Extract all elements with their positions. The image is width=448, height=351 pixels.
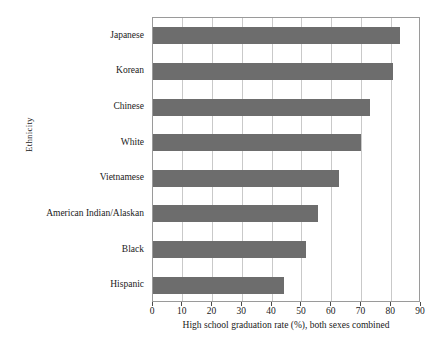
bar bbox=[153, 134, 361, 151]
x-axis-tick-label: 20 bbox=[199, 306, 225, 316]
x-axis-tick-label: 0 bbox=[139, 306, 165, 316]
y-axis-tick-label: White bbox=[28, 137, 144, 147]
bar bbox=[153, 205, 318, 222]
y-axis-tick-label: Vietnamese bbox=[28, 172, 144, 182]
plot-area bbox=[152, 17, 420, 302]
bar bbox=[153, 241, 306, 258]
x-axis-tick-labels: 0102030405060708090 bbox=[152, 306, 420, 319]
gridline-10 bbox=[182, 18, 183, 301]
y-axis-tick-label: Chinese bbox=[28, 101, 144, 111]
gridline-80 bbox=[391, 18, 392, 301]
x-axis-tick-label: 70 bbox=[347, 306, 373, 316]
x-axis-tick-label: 90 bbox=[407, 306, 433, 316]
gridline-20 bbox=[212, 18, 213, 301]
gridline-70 bbox=[361, 18, 362, 301]
y-axis-tick-labels: JapaneseKoreanChineseWhiteVietnameseAmer… bbox=[30, 17, 148, 302]
y-axis-tick-label: Japanese bbox=[28, 30, 144, 40]
x-axis-tick-label: 80 bbox=[377, 306, 403, 316]
x-axis-tick-label: 40 bbox=[258, 306, 284, 316]
y-axis-tick-label: Black bbox=[28, 244, 144, 254]
bar bbox=[153, 99, 370, 116]
x-axis-tick-label: 60 bbox=[318, 306, 344, 316]
y-axis-tick-label: Hispanic bbox=[28, 279, 144, 289]
chart-figure: Ethnicity JapaneseKoreanChineseWhiteViet… bbox=[0, 0, 448, 351]
x-axis-tick-label: 30 bbox=[228, 306, 254, 316]
gridline-50 bbox=[301, 18, 302, 301]
x-axis-title: High school graduation rate (%), both se… bbox=[152, 320, 420, 330]
bar bbox=[153, 27, 400, 44]
gridline-40 bbox=[272, 18, 273, 301]
x-axis-tick-label: 10 bbox=[169, 306, 195, 316]
bar bbox=[153, 170, 339, 187]
bar bbox=[153, 63, 393, 80]
x-axis-tick-label: 50 bbox=[288, 306, 314, 316]
y-axis-tick-label: Korean bbox=[28, 65, 144, 75]
gridline-30 bbox=[242, 18, 243, 301]
y-axis-tick-label: American Indian/Alaskan bbox=[28, 208, 144, 218]
bar bbox=[153, 277, 284, 294]
gridline-60 bbox=[331, 18, 332, 301]
